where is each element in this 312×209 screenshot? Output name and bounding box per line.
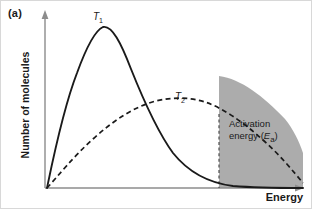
x-axis-title: Energy — [266, 191, 303, 203]
activation-energy-line-1: Activation — [229, 118, 278, 130]
distribution-plot — [1, 1, 312, 209]
curve-label-t1: T1 — [93, 11, 103, 24]
activation-energy-line-2: energy (Ea) — [229, 130, 278, 146]
y-axis-title: Number of molecules — [19, 30, 31, 180]
activation-energy-suffix: ) — [275, 130, 278, 141]
maxwell-boltzmann-figure: (a) Number of molecules Energy T1 T2 Act… — [0, 0, 312, 209]
curve-label-t2-subscript: 2 — [181, 97, 185, 104]
y-axis — [42, 10, 49, 188]
activation-energy-annotation: Activation energy (Ea) — [229, 118, 278, 146]
panel-label: (a) — [8, 7, 22, 19]
curve-label-t1-subscript: 1 — [99, 17, 103, 24]
curve-label-t2: T2 — [175, 91, 185, 104]
activation-energy-prefix: energy ( — [229, 130, 264, 141]
